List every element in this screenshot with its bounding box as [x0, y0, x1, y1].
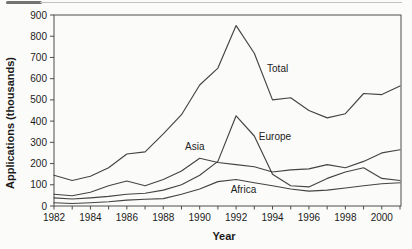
x-axis-title: Year [212, 230, 236, 242]
x-tick-label: 1988 [152, 212, 175, 223]
x-tick-label: 1998 [334, 212, 357, 223]
asia-series-line [54, 150, 400, 196]
x-tick-label: 1984 [79, 212, 102, 223]
y-tick-label: 700 [30, 52, 47, 63]
total-series-label: Total [267, 63, 288, 74]
x-tick-label: 1996 [298, 212, 321, 223]
y-tick-label: 400 [30, 116, 47, 127]
y-tick-label: 100 [30, 179, 47, 190]
x-tick-label: 1992 [225, 212, 248, 223]
x-tick-label: 2000 [371, 212, 394, 223]
series-lines [54, 26, 400, 204]
asia-series-label: Asia [185, 141, 205, 152]
y-tick-label: 300 [30, 137, 47, 148]
y-tick-label: 200 [30, 158, 47, 169]
x-tick-label: 1994 [261, 212, 284, 223]
y-tick-label: 900 [30, 10, 47, 21]
europe-series-label: Europe [259, 131, 292, 142]
scan-artifact-line [40, 2, 402, 3]
y-axis-ticks: 0100200300400500600700800900 [30, 10, 54, 212]
scan-artifact-dash [6, 1, 42, 4]
y-tick-label: 600 [30, 73, 47, 84]
x-axis-ticks: 1982198419861988199019921994199619982000 [43, 206, 400, 223]
y-tick-label: 500 [30, 94, 47, 105]
y-axis-title: Applications (thousands) [4, 57, 16, 189]
y-tick-label: 0 [41, 201, 47, 212]
total-series-line [54, 26, 400, 181]
africa-series-line [54, 180, 400, 204]
x-tick-label: 1982 [43, 212, 66, 223]
x-tick-label: 1990 [189, 212, 212, 223]
africa-series-label: Africa [231, 184, 257, 195]
x-tick-label: 1986 [116, 212, 139, 223]
y-tick-label: 800 [30, 31, 47, 42]
scanned-chart-figure: Applications (thousands) Year 0100200300… [0, 0, 412, 249]
applications-line-chart: Applications (thousands) Year 0100200300… [0, 0, 412, 249]
